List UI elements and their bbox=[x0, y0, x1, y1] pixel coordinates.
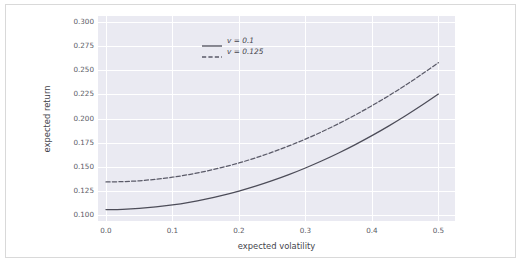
series-line-1 bbox=[106, 63, 438, 182]
x-tick-label: 0.4 bbox=[352, 227, 392, 234]
legend-line-swatch bbox=[202, 36, 222, 46]
legend-line-swatch bbox=[202, 47, 222, 57]
y-tick-label: 0.100 bbox=[54, 211, 94, 218]
y-tick-label: 0.250 bbox=[54, 66, 94, 73]
legend-entry: v = 0.125 bbox=[202, 46, 263, 57]
x-tick-label: 0.0 bbox=[86, 227, 126, 234]
y-axis-title: expected return bbox=[42, 85, 52, 152]
y-tick-label: 0.200 bbox=[54, 115, 94, 122]
y-axis-tick-labels: 0.1000.1250.1500.1750.2000.2250.2500.275… bbox=[52, 16, 94, 221]
legend-entry: v = 0.1 bbox=[202, 35, 263, 46]
y-tick-label: 0.150 bbox=[54, 163, 94, 170]
y-axis-title-wrapper: expected return bbox=[40, 16, 54, 221]
figure-canvas: 0.1000.1250.1500.1750.2000.2250.2500.275… bbox=[0, 0, 526, 276]
x-tick-label: 0.1 bbox=[152, 227, 192, 234]
y-tick-label: 0.275 bbox=[54, 42, 94, 49]
legend-label: v = 0.125 bbox=[227, 47, 263, 56]
y-tick-label: 0.125 bbox=[54, 187, 94, 194]
y-tick-label: 0.300 bbox=[54, 18, 94, 25]
x-tick-label: 0.5 bbox=[418, 227, 458, 234]
legend-label: v = 0.1 bbox=[227, 36, 254, 45]
y-tick-label: 0.225 bbox=[54, 90, 94, 97]
legend: v = 0.1v = 0.125 bbox=[202, 35, 263, 57]
x-tick-label: 0.3 bbox=[285, 227, 325, 234]
plot-area: v = 0.1v = 0.125 bbox=[98, 16, 455, 221]
x-axis-tick-labels: 0.00.10.20.30.40.5 bbox=[98, 227, 455, 239]
x-axis-title: expected volatility bbox=[98, 241, 455, 251]
series-layer bbox=[98, 16, 455, 221]
x-tick-label: 0.2 bbox=[219, 227, 259, 234]
y-tick-label: 0.175 bbox=[54, 139, 94, 146]
